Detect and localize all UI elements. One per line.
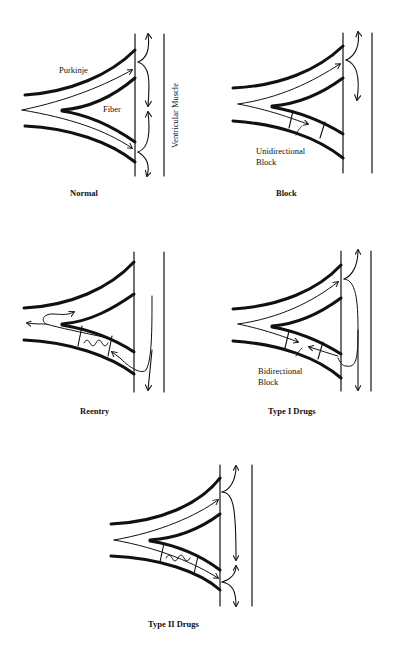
- purkinje-fiber-diagram-reentry: [0, 220, 200, 430]
- panel-type-ii-drugs: Type II Drugs: [100, 430, 300, 657]
- panel-normal: Purkinje Fiber Ventricular Muscle Normal: [0, 0, 200, 220]
- panel-type-i-drugs: Bidirectional Block Type I Drugs: [200, 220, 394, 430]
- panel-reentry: Reentry: [0, 220, 200, 430]
- label-purkinje: Purkinje: [59, 65, 88, 76]
- purkinje-fiber-diagram-type-i-drugs: [200, 220, 394, 430]
- purkinje-fiber-diagram-block: [200, 0, 394, 220]
- caption-block: Block: [276, 188, 297, 198]
- label-ventricular-muscle: Ventricular Muscle: [170, 83, 180, 148]
- label-unidirectional-block: Unidirectional Block: [256, 146, 305, 168]
- purkinje-fiber-diagram-type-ii-drugs: [100, 430, 300, 657]
- caption-type-i-drugs: Type I Drugs: [268, 406, 316, 416]
- caption-type-ii-drugs: Type II Drugs: [148, 619, 199, 629]
- panel-block: Unidirectional Block Block: [200, 0, 394, 220]
- caption-reentry: Reentry: [80, 406, 109, 416]
- label-bidirectional-block: Bidirectional Block: [258, 366, 302, 388]
- label-fiber: Fiber: [103, 104, 121, 115]
- caption-normal: Normal: [70, 188, 98, 198]
